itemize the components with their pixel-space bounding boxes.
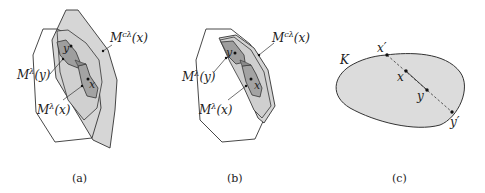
leader-dot-mclx-a	[102, 50, 104, 52]
convex-set-K	[336, 54, 464, 128]
leader-dot-mclx-b	[258, 54, 260, 56]
leader-dot-mlx-b	[245, 85, 247, 87]
point-y-a	[70, 45, 73, 48]
point-x-b	[250, 78, 253, 81]
leader-dot-mly-b	[225, 57, 227, 59]
label-mclx-a: Mcλ(x)	[109, 30, 148, 45]
label-y-a: y	[62, 42, 70, 55]
label-mlx-a: Mλ(x)	[36, 102, 71, 117]
leader-dot-mlx-a	[81, 85, 83, 87]
label-yp: y′	[449, 115, 460, 129]
label-mly-b: Mλ(y)	[181, 69, 216, 84]
leader-dot-mly-a	[62, 58, 64, 60]
point-y-b	[234, 52, 237, 55]
label-K: K	[339, 53, 350, 67]
label-x-b: x	[254, 79, 261, 92]
label-xp: x′	[377, 41, 387, 55]
label-mclx-b: Mcλ(x)	[271, 30, 310, 45]
label-x-a: x	[89, 78, 96, 91]
figure-canvas: y x Mcλ(x) Mλ(y) Mλ(x) (a) y x	[0, 0, 485, 193]
caption-c: (c)	[392, 172, 407, 185]
label-x-c: x	[397, 70, 404, 84]
panel-b: y x Mcλ(x) Mλ(y) Mλ(x) (b)	[181, 29, 310, 185]
panel-c: K x′ x y y′ (c)	[336, 41, 464, 185]
panel-a: y x Mcλ(x) Mλ(y) Mλ(x) (a)	[16, 10, 148, 185]
label-y-c: y	[416, 89, 424, 103]
label-mlx-b: Mλ(x)	[198, 102, 233, 117]
caption-a: (a)	[72, 172, 87, 185]
caption-b: (b)	[227, 172, 243, 185]
label-mly-a: Mλ(y)	[16, 67, 51, 82]
point-yp	[450, 110, 453, 113]
point-y-c	[425, 88, 428, 91]
point-x-c	[404, 69, 407, 72]
